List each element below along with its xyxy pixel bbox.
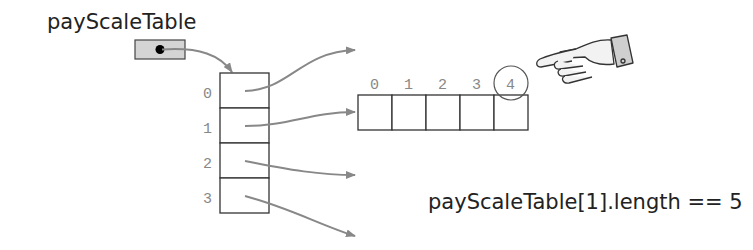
array-of-arrays-diagram: payScaleTable 0 1 2 3 bbox=[0, 0, 753, 250]
inner-index-0: 0 bbox=[370, 77, 379, 94]
outer-index-2: 2 bbox=[203, 156, 212, 173]
outer-cell-3 bbox=[220, 178, 269, 213]
length-expression: payScaleTable[1].length == 5 bbox=[428, 190, 743, 214]
outer-cell-2 bbox=[220, 143, 269, 178]
inner-cell-0 bbox=[358, 95, 392, 130]
outer-index-1: 1 bbox=[203, 121, 212, 138]
variable-label: payScaleTable bbox=[47, 10, 196, 34]
pointing-hand-icon bbox=[537, 35, 633, 83]
inner-cell-2 bbox=[426, 95, 460, 130]
outer-index-3: 3 bbox=[203, 191, 212, 208]
outer-cell-0 bbox=[220, 73, 269, 108]
inner-index-4: 4 bbox=[506, 77, 515, 94]
inner-index-3: 3 bbox=[472, 77, 481, 94]
inner-cell-3 bbox=[460, 95, 494, 130]
inner-cell-1 bbox=[392, 95, 426, 130]
outer-index-0: 0 bbox=[203, 86, 212, 103]
inner-index-1: 1 bbox=[404, 77, 413, 94]
inner-array-row-1 bbox=[358, 95, 528, 130]
inner-index-2: 2 bbox=[438, 77, 447, 94]
outer-array bbox=[220, 73, 269, 213]
